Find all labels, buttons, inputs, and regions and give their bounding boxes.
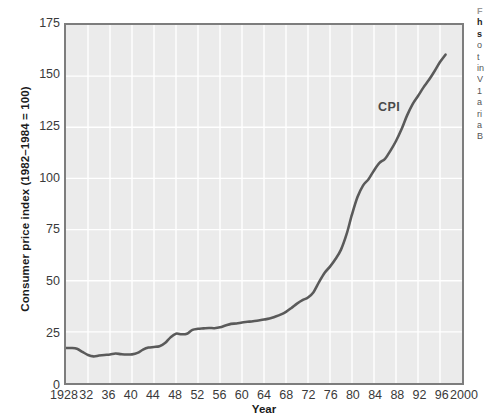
caption-line: h — [477, 17, 491, 28]
x-tick-label: 40 — [124, 389, 138, 402]
x-tick-label: 48 — [168, 389, 182, 402]
caption-line: F — [477, 6, 491, 17]
x-tick-label: 72 — [301, 389, 315, 402]
figure-caption-column: FhsotinV1ariaB- — [477, 6, 491, 146]
caption-line: in — [477, 63, 491, 74]
x-tick-label: 1928 — [50, 389, 78, 402]
caption-line: 1 — [477, 86, 491, 97]
caption-line: s — [477, 29, 491, 40]
y-tick-label: 25 — [26, 327, 60, 340]
x-tick-label: 96 — [435, 389, 449, 402]
y-tick-label: 150 — [26, 68, 60, 81]
x-tick-label: 52 — [190, 389, 204, 402]
x-tick-label: 36 — [101, 389, 115, 402]
x-tick-label: 32 — [79, 389, 93, 402]
plot-area — [64, 23, 464, 385]
y-tick-label: 75 — [26, 223, 60, 236]
y-tick-label: 50 — [26, 275, 60, 288]
x-tick-label: 88 — [390, 389, 404, 402]
caption-line: o — [477, 40, 491, 51]
x-axis-title: Year — [64, 403, 464, 415]
caption-line: B — [477, 131, 491, 142]
cpi-figure: Consumer price index (1982–1984 = 100) 0… — [0, 0, 491, 418]
x-tick-label: 92 — [413, 389, 427, 402]
grid-lines — [66, 25, 462, 383]
x-tick-label: 76 — [324, 389, 338, 402]
x-tick-label: 56 — [213, 389, 227, 402]
caption-line: a — [477, 120, 491, 131]
caption-line: - — [477, 143, 491, 146]
y-tick-label: 175 — [26, 17, 60, 30]
x-tick-label: 2000 — [450, 389, 478, 402]
x-tick-label: 44 — [146, 389, 160, 402]
cpi-series-annotation: CPI — [378, 100, 400, 114]
y-tick-label: 100 — [26, 172, 60, 185]
x-tick-label: 60 — [235, 389, 249, 402]
y-axis-tick-labels: 0255075100125150175 — [20, 0, 60, 418]
plot-canvas — [66, 25, 462, 383]
x-tick-label: 84 — [368, 389, 382, 402]
caption-line: ri — [477, 109, 491, 120]
x-tick-label: 64 — [257, 389, 271, 402]
caption-line: V — [477, 74, 491, 85]
caption-line: a — [477, 97, 491, 108]
x-tick-label: 80 — [346, 389, 360, 402]
y-tick-label: 125 — [26, 120, 60, 133]
caption-line: t — [477, 52, 491, 63]
x-tick-label: 68 — [279, 389, 293, 402]
